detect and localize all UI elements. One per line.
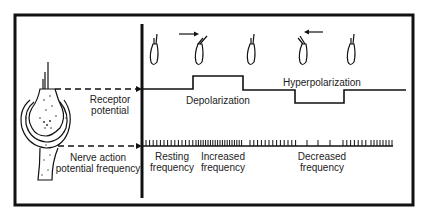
increased-frequency-label: Increased frequency <box>198 151 248 173</box>
arrow-right-icon <box>194 32 199 37</box>
label-line: frequency <box>198 162 248 173</box>
label-line: potential frequency <box>53 163 143 174</box>
hair-cell-icon <box>247 34 255 65</box>
hair-cell-icon <box>150 34 158 65</box>
label-line: Increased <box>198 151 248 162</box>
label-line: potential <box>78 105 142 116</box>
receptor-potential-trace <box>142 76 406 103</box>
label-line: Decreased <box>294 151 350 162</box>
deflection-arrows <box>179 32 323 34</box>
hyperpolarization-label: Hyperpolarization <box>283 77 361 88</box>
depolarization-label: Depolarization <box>186 95 250 106</box>
label-line: Resting <box>147 151 197 162</box>
hair-cell-icon <box>195 36 207 65</box>
label-line: frequency <box>294 162 350 173</box>
diagram-canvas <box>0 0 423 222</box>
action-potential-spikes <box>146 140 392 146</box>
label-line: Nerve action <box>53 152 143 163</box>
hair-cell-icon <box>347 34 355 65</box>
hair-cell-row <box>150 34 355 65</box>
nerve-action-label: Nerve action potential frequency <box>53 152 143 174</box>
resting-frequency-label: Resting frequency <box>147 151 197 173</box>
label-line: frequency <box>147 162 197 173</box>
arrow-left-icon <box>304 30 309 35</box>
receptor-potential-label: Receptor potential <box>78 94 142 116</box>
label-line: Receptor <box>78 94 142 105</box>
hair-cell-icon <box>298 36 307 65</box>
decreased-frequency-label: Decreased frequency <box>294 151 350 173</box>
